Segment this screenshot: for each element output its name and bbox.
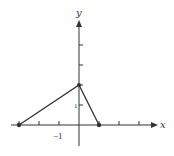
- y-axis-label: y: [75, 7, 82, 18]
- y-axis-arrow-icon: [76, 20, 82, 27]
- x-axis-label: x: [160, 119, 166, 130]
- x-axis-arrow-icon: [151, 122, 158, 128]
- graph: x y −1 1: [0, 0, 174, 156]
- point-marker: [97, 123, 101, 127]
- y-tick-label-1: 1: [74, 102, 78, 110]
- point-marker: [77, 83, 81, 87]
- y-ticks: [79, 45, 83, 105]
- piecewise-line: [19, 85, 99, 125]
- x-tick-label-neg1: −1: [53, 131, 63, 141]
- point-marker: [17, 123, 21, 127]
